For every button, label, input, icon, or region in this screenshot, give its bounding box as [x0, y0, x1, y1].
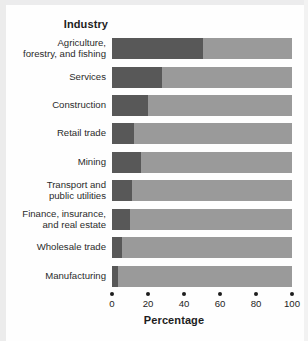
bar-row-label-line1: Retail trade [0, 127, 106, 138]
stacked-bar [112, 237, 292, 258]
x-axis-tick-label: 0 [109, 298, 114, 309]
bar-row-label: Manufacturing [0, 270, 106, 281]
stacked-bar-dark-segment [112, 123, 134, 144]
stacked-bar [112, 95, 292, 116]
bar-row-label-line1: Services [0, 71, 106, 82]
bar-row-label-line1: Wholesale trade [0, 241, 106, 252]
stacked-bar [112, 123, 292, 144]
x-axis-tick-dot [110, 292, 114, 296]
stacked-bar-dark-segment [112, 152, 141, 173]
x-axis-tick-label: 100 [284, 298, 300, 309]
stacked-bar-dark-segment [112, 266, 118, 287]
bar-row-label: Construction [0, 99, 106, 110]
stacked-bar [112, 209, 292, 230]
stacked-bar-dark-segment [112, 209, 130, 230]
x-axis-title: Percentage [144, 314, 204, 326]
plot-area: Industry Agriculture,forestry, and fishi… [0, 0, 308, 341]
stacked-bar-dark-segment [112, 38, 203, 59]
x-axis-tick-dot [218, 292, 222, 296]
bar-row-label-line1: Agriculture, [0, 37, 106, 48]
bar-row-label: Retail trade [0, 127, 106, 138]
stacked-bar [112, 266, 292, 287]
stacked-bar-dark-segment [112, 180, 132, 201]
x-axis-tick-label: 20 [143, 298, 154, 309]
bar-row-label: Transport andpublic utilities [0, 179, 106, 202]
stacked-bar-dark-segment [112, 67, 162, 88]
bar-row-label-line1: Manufacturing [0, 270, 106, 281]
bar-row-label-line1: Construction [0, 99, 106, 110]
stacked-bar-dark-segment [112, 237, 122, 258]
bar-row-label-line2: and real estate [0, 219, 106, 230]
bar-row-label-line2: public utilities [0, 190, 106, 201]
chart-figure: Industry Agriculture,forestry, and fishi… [0, 0, 308, 341]
stacked-bar-dark-segment [112, 95, 148, 116]
x-axis-tick-dot [254, 292, 258, 296]
x-axis-tick-label: 40 [179, 298, 190, 309]
bar-row-label: Agriculture,forestry, and fishing [0, 37, 106, 60]
stacked-bar [112, 152, 292, 173]
x-axis-tick-dot [146, 292, 150, 296]
bar-row-label-line1: Finance, insurance, [0, 208, 106, 219]
bar-row-label: Finance, insurance,and real estate [0, 208, 106, 231]
x-axis-tick-dot [290, 292, 294, 296]
bar-row-label-line1: Transport and [0, 179, 106, 190]
stacked-bar [112, 38, 292, 59]
bar-row-label: Mining [0, 156, 106, 167]
x-axis-tick-dot [182, 292, 186, 296]
stacked-bar [112, 67, 292, 88]
stacked-bar [112, 180, 292, 201]
x-axis-tick-label: 80 [251, 298, 262, 309]
x-axis-tick-label: 60 [215, 298, 226, 309]
bar-row-label: Services [0, 71, 106, 82]
bar-row-label-line1: Mining [0, 156, 106, 167]
bar-row-label-line2: forestry, and fishing [0, 48, 106, 59]
bar-row-label: Wholesale trade [0, 241, 106, 252]
industry-group-heading: Industry [0, 18, 108, 30]
